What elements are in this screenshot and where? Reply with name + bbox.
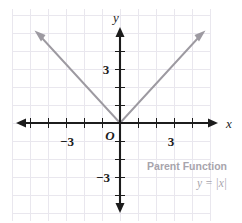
x-tick-label-neg3: −3	[60, 134, 74, 149]
parent-function-title: Parent Function	[147, 160, 227, 172]
y-axis-arrow-down	[116, 203, 125, 213]
x-axis-arrow-left	[16, 119, 26, 128]
y-tick-label-pos3: 3	[103, 62, 110, 77]
y-tick-label-neg3: −3	[96, 170, 110, 185]
parent-function-graph-figure: y x O −3 3 3 −3 Parent Function y = |x|	[0, 0, 242, 223]
x-axis-arrow-right	[208, 119, 218, 128]
y-axis-label: y	[111, 10, 119, 25]
x-tick-label-pos3: 3	[168, 134, 175, 149]
x-axis-label: x	[225, 116, 232, 131]
y-axis-arrow-up	[116, 27, 125, 37]
parent-function-equation: y = |x|	[196, 177, 227, 190]
origin-label: O	[105, 128, 115, 143]
